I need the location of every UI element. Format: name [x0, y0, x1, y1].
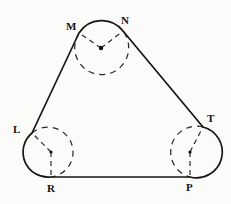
- center-dot-top: [99, 46, 103, 50]
- dashed-circles-group: [32, 31, 203, 177]
- point-label-m: M: [66, 21, 77, 32]
- point-label-p: P: [186, 182, 193, 193]
- radius-left-to-l: [32, 133, 51, 152]
- radius-top-to-n: [101, 31, 123, 48]
- radius-right-to-t: [190, 127, 203, 152]
- dashed-circle-top: [75, 31, 129, 75]
- dashed-circle-right: [171, 126, 203, 177]
- point-label-t: T: [207, 113, 215, 124]
- point-label-n: N: [121, 15, 129, 26]
- geometry-figure: M N L T R P: [0, 0, 231, 204]
- dashed-radii-group: [32, 31, 203, 177]
- radius-top-to-m: [79, 33, 101, 48]
- point-label-l: L: [13, 124, 21, 135]
- center-dot-left: [49, 150, 52, 153]
- point-label-r: R: [47, 183, 55, 194]
- center-dot-right: [188, 150, 191, 153]
- rounded-triangle-outline: [23, 21, 222, 178]
- circle-centers-group: [49, 46, 191, 154]
- figure-canvas: [0, 0, 231, 204]
